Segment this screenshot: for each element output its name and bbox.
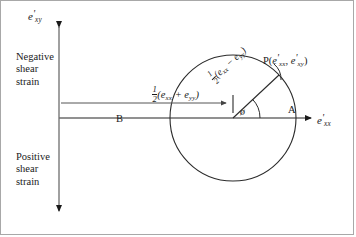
y-axis-label: e'xy <box>28 8 42 24</box>
mean-strain-close-paren: ) <box>196 89 200 100</box>
mohrs-circle-figure: e'xy e'xx Negative shear strain Positive… <box>0 0 356 237</box>
negative-shear-strain-label: Negative shear strain <box>16 51 54 88</box>
angle-phi-label: ø <box>240 106 245 118</box>
positive-shear-line-2: shear <box>16 163 50 175</box>
y-axis-label-subscript: xy <box>35 16 42 24</box>
point-a-label: A <box>288 104 296 116</box>
diagram-canvas <box>0 0 356 237</box>
point-p-prefix: P( <box>263 55 272 66</box>
negative-shear-line-3: strain <box>16 76 54 88</box>
negative-shear-line-2: shear <box>16 63 54 75</box>
positive-shear-line-3: strain <box>16 176 50 188</box>
x-axis-label: e'xx <box>317 112 331 128</box>
point-p-label: P(e'xx, e'xy) <box>263 53 308 68</box>
mean-strain-operator: + <box>172 89 184 100</box>
point-p-suffix: ) <box>304 55 308 66</box>
positive-shear-line-1: Positive <box>16 151 50 163</box>
mean-strain-annotation: 12(exx + eyy) <box>152 85 199 104</box>
positive-shear-strain-label: Positive shear strain <box>16 151 50 188</box>
point-b-label: B <box>116 113 123 125</box>
x-axis-label-subscript: xx <box>324 120 331 128</box>
negative-shear-line-1: Negative <box>16 51 54 63</box>
angle-arc <box>252 99 260 118</box>
